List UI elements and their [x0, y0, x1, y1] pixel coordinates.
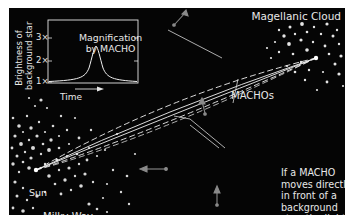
inset-x-axis-label: Time	[60, 92, 82, 102]
machos-label: MACHOs	[231, 90, 274, 101]
milky-way-label: Milky Way	[43, 211, 93, 215]
ytick-2x: 2×	[36, 55, 49, 65]
magnification-inset-chart	[48, 20, 138, 92]
sun-label: Sun	[29, 187, 47, 198]
sun-marker	[34, 168, 38, 172]
callout-lines	[168, 30, 238, 148]
inset-title-line2: by MACHO	[79, 43, 142, 54]
description-text: If a MACHO moves directly in front of a …	[281, 167, 345, 215]
time-arrow-icon	[97, 87, 104, 92]
inset-title: Magnification by MACHO	[79, 32, 142, 54]
ytick-1x: 1×	[36, 76, 49, 86]
magellanic-cloud-label: Magellanic Cloud	[251, 10, 341, 22]
inset-title-line1: Magnification	[79, 32, 142, 43]
diagram-panel: Magellanic Cloud MACHOs If a MACHO moves…	[9, 8, 345, 215]
ylabel-line2: background star	[25, 26, 35, 90]
magellanic-cloud-stars	[266, 22, 344, 91]
ytick-3x: 3×	[36, 32, 49, 42]
background-star	[314, 56, 318, 60]
inset-y-axis-label: Brightness of background star	[15, 26, 34, 90]
